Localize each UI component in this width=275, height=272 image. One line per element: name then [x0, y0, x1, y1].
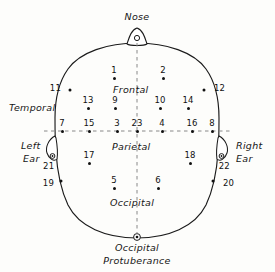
electrode-dot-18-icon	[189, 162, 192, 165]
electrode-number-1: 1	[111, 65, 117, 75]
electrode-dot-6-icon	[157, 187, 160, 190]
electrode-dot-10-icon	[159, 107, 162, 110]
electrode-number-8: 8	[209, 118, 215, 128]
electrode-number-20: 20	[223, 178, 234, 188]
electrode-dot-3-icon	[116, 130, 119, 133]
head-outline-svg	[0, 0, 275, 272]
electrode-number-13: 13	[82, 95, 93, 105]
occipital-protuberance-label-line2: Protuberance	[88, 256, 186, 266]
electrode-dot-14-icon	[187, 107, 190, 110]
electrode-dot-4-icon	[161, 130, 164, 133]
electrode-number-16: 16	[186, 118, 197, 128]
electrode-number-6: 6	[155, 175, 161, 185]
electrode-dot-9-icon	[114, 107, 117, 110]
electrode-number-22: 22	[219, 161, 230, 171]
electrode-dot-7-icon	[61, 130, 64, 133]
electrode-number-4: 4	[159, 118, 165, 128]
electrode-dot-8-icon	[211, 130, 214, 133]
left-ear-dot-icon	[52, 155, 54, 157]
electrode-number-18: 18	[184, 150, 195, 160]
electrode-number-21: 21	[43, 161, 54, 171]
electrode-dot-1-icon	[113, 77, 116, 80]
electrode-number-11: 11	[50, 83, 61, 93]
electrode-dot-5-icon	[113, 187, 116, 190]
electrode-number-9: 9	[112, 95, 118, 105]
electrode-edge-dot-19-icon	[60, 180, 63, 183]
left-ear-label-line2: Ear	[23, 154, 40, 164]
electrode-dot-16-icon	[191, 130, 194, 133]
electrode-number-15: 15	[83, 118, 94, 128]
electrode-dot-2-icon	[162, 77, 165, 80]
electrode-number-17: 17	[83, 150, 94, 160]
electrode-edge-dot-11-icon	[69, 89, 72, 92]
nose-label: Nose	[116, 12, 158, 22]
parietal-region-label: Parietal	[112, 142, 151, 152]
inion-dot-icon	[136, 236, 139, 239]
electrode-number-5: 5	[111, 175, 117, 185]
electrode-number-19: 19	[43, 178, 54, 188]
electrode-number-14: 14	[182, 95, 193, 105]
eeg-head-diagram: Nose Occipital Protuberance Temporal Lef…	[0, 0, 275, 272]
electrode-number-3: 3	[114, 118, 120, 128]
electrode-dot-15-icon	[88, 130, 91, 133]
electrode-number-23: 23	[131, 118, 142, 128]
electrode-edge-dot-20-icon	[212, 180, 215, 183]
right-ear-label-line1: Right	[236, 141, 263, 151]
electrode-dot-17-icon	[88, 162, 91, 165]
electrode-dot-23-icon	[136, 130, 139, 133]
electrode-edge-dot-12-icon	[203, 89, 206, 92]
occipital-protuberance-label-line1: Occipital	[88, 243, 186, 253]
electrode-number-2: 2	[160, 65, 166, 75]
electrode-number-7: 7	[59, 118, 65, 128]
frontal-region-label: Frontal	[113, 85, 149, 95]
right-ear-dot-icon	[221, 155, 223, 157]
temporal-label: Temporal	[9, 103, 55, 113]
nasion-marker-icon	[134, 35, 139, 40]
occipital-region-label: Occipital	[110, 198, 154, 208]
electrode-number-12: 12	[214, 83, 225, 93]
right-ear-label-line2: Ear	[236, 154, 253, 164]
electrode-number-10: 10	[154, 95, 165, 105]
electrode-dot-13-icon	[87, 107, 90, 110]
left-ear-label-line1: Left	[21, 141, 40, 151]
